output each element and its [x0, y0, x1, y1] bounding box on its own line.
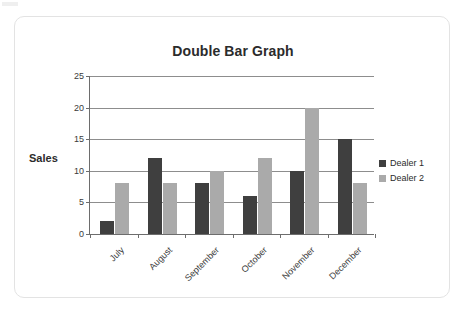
bar-dealer-2[interactable]	[353, 183, 367, 234]
bar-dealer-2[interactable]	[115, 183, 129, 234]
legend-label: Dealer 2	[390, 174, 424, 183]
bar-group	[195, 76, 224, 234]
image-artifact	[2, 2, 18, 6]
bar-dealer-2[interactable]	[163, 183, 177, 234]
legend-label: Dealer 1	[390, 159, 424, 168]
plot-area: 0510152025 JulyAugustSeptemberOctoberNov…	[89, 76, 374, 234]
x-axis-label: July	[108, 245, 126, 263]
x-tick-mark	[280, 234, 281, 238]
chart-title: Double Bar Graph	[15, 43, 451, 59]
chart-legend: Dealer 1Dealer 2	[379, 159, 424, 189]
bars-layer: JulyAugustSeptemberOctoberNovemberDecemb…	[90, 76, 374, 234]
bar-group	[338, 76, 367, 234]
bar-dealer-1[interactable]	[100, 221, 114, 234]
legend-item[interactable]: Dealer 2	[379, 174, 424, 183]
bar-dealer-2[interactable]	[258, 158, 272, 234]
screenshot-root: Double Bar Graph Sales 0510152025 JulyAu…	[0, 0, 466, 314]
bar-dealer-2[interactable]	[305, 108, 319, 234]
bar-group	[100, 76, 129, 234]
x-tick-mark	[328, 234, 329, 238]
x-axis-label: December	[328, 245, 364, 281]
y-tick-label: 10	[74, 166, 84, 176]
chart-card: Double Bar Graph Sales 0510152025 JulyAu…	[14, 16, 450, 298]
bar-group	[290, 76, 319, 234]
x-tick-mark	[233, 234, 234, 238]
x-axis-label: October	[239, 245, 269, 275]
bar-dealer-1[interactable]	[243, 196, 257, 234]
bar-group	[148, 76, 177, 234]
x-axis-label: August	[147, 245, 174, 272]
y-tick-label: 20	[74, 103, 84, 113]
y-tick-label: 25	[74, 71, 84, 81]
legend-item[interactable]: Dealer 1	[379, 159, 424, 168]
y-axis-label: Sales	[29, 152, 58, 164]
bar-dealer-1[interactable]	[290, 171, 304, 234]
bar-dealer-1[interactable]	[195, 183, 209, 234]
x-tick-mark	[90, 234, 91, 238]
x-axis-label: November	[280, 245, 316, 281]
y-tick-label: 0	[79, 229, 84, 239]
legend-swatch-icon	[379, 175, 386, 182]
x-tick-mark	[138, 234, 139, 238]
x-tick-mark	[375, 234, 376, 238]
bar-dealer-1[interactable]	[338, 139, 352, 234]
bar-dealer-2[interactable]	[210, 171, 224, 234]
x-axis-label: September	[183, 245, 221, 283]
y-tick-label: 5	[79, 197, 84, 207]
y-tick-label: 15	[74, 134, 84, 144]
legend-swatch-icon	[379, 160, 386, 167]
bar-group	[243, 76, 272, 234]
x-tick-mark	[185, 234, 186, 238]
bar-dealer-1[interactable]	[148, 158, 162, 234]
